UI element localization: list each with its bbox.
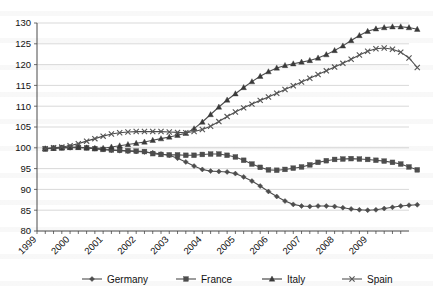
- marker-square: [142, 149, 147, 154]
- y-tick-label: 85: [20, 205, 31, 216]
- marker-square: [274, 168, 279, 173]
- marker-square: [307, 162, 312, 167]
- legend-label-italy: Italy: [287, 274, 305, 285]
- marker-square: [374, 158, 379, 163]
- y-tick-label: 105: [15, 121, 31, 132]
- marker-square: [159, 152, 164, 157]
- y-tick-label: 115: [16, 80, 31, 91]
- marker-square: [250, 162, 255, 167]
- y-tick-label: 125: [15, 38, 31, 49]
- marker-square: [324, 158, 329, 163]
- marker-square: [167, 152, 172, 157]
- marker-square: [258, 165, 263, 170]
- marker-square: [117, 148, 122, 153]
- marker-square: [233, 155, 238, 160]
- line-chart: 8085909510010511011512012513019992000200…: [0, 0, 433, 297]
- marker-square: [192, 153, 197, 158]
- marker-square: [316, 160, 321, 165]
- legend-label-germany: Germany: [107, 274, 148, 285]
- x-tick-label: 2005: [214, 234, 237, 257]
- marker-diamond: [415, 202, 420, 207]
- y-tick-label: 110: [16, 101, 31, 112]
- legend: GermanyFranceItalySpain: [82, 274, 393, 285]
- x-tick-label: 2007: [280, 234, 303, 257]
- marker-square: [126, 148, 131, 153]
- marker-square: [208, 152, 213, 157]
- marker-square: [398, 162, 403, 167]
- y-tick-label: 95: [20, 163, 31, 174]
- x-tick-label: 2008: [313, 234, 336, 257]
- x-tick-label: 2003: [148, 234, 171, 257]
- marker-square: [150, 151, 155, 156]
- marker-square: [291, 166, 296, 171]
- marker-square: [357, 157, 362, 162]
- marker-square: [134, 149, 139, 154]
- marker-square: [184, 277, 189, 282]
- marker-square: [390, 160, 395, 165]
- marker-square: [365, 157, 370, 162]
- marker-square: [407, 165, 412, 170]
- x-tick-label: 2000: [49, 234, 72, 257]
- marker-square: [382, 159, 387, 164]
- legend-label-france: France: [201, 274, 233, 285]
- y-tick-label: 130: [15, 17, 31, 28]
- marker-square: [340, 157, 345, 162]
- marker-square: [225, 153, 230, 158]
- x-tick-label: 2004: [181, 234, 204, 257]
- marker-diamond: [90, 277, 95, 282]
- marker-square: [183, 153, 188, 158]
- marker-square: [200, 152, 205, 157]
- y-tick-label: 90: [20, 184, 31, 195]
- chart-canvas: 8085909510010511011512012513019992000200…: [0, 0, 433, 297]
- marker-square: [299, 165, 304, 170]
- marker-square: [266, 167, 271, 172]
- marker-x: [415, 65, 420, 70]
- marker-square: [349, 156, 354, 161]
- y-tick-label: 120: [15, 59, 31, 70]
- x-tick-label: 2001: [82, 234, 105, 257]
- x-tick-label: 2006: [247, 234, 270, 257]
- marker-square: [216, 152, 221, 157]
- legend-label-spain: Spain: [367, 274, 393, 285]
- x-tick-label: 2009: [346, 234, 369, 257]
- x-tick-label: 1999: [16, 234, 39, 257]
- marker-square: [283, 167, 288, 172]
- y-tick-label: 100: [15, 142, 31, 153]
- x-tick-label: 2002: [115, 234, 138, 257]
- marker-square: [415, 167, 420, 172]
- marker-square: [175, 152, 180, 157]
- marker-square: [241, 158, 246, 163]
- marker-square: [332, 157, 337, 162]
